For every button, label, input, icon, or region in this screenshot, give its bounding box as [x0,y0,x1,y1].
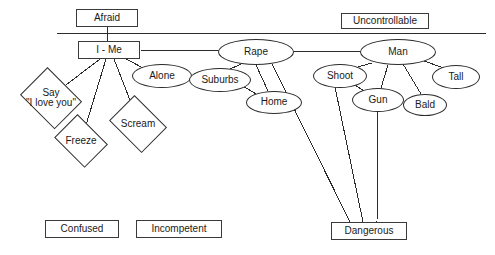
node-label-rape: Rape [244,47,268,58]
node-label-bald: Bald [415,100,435,111]
node-alone[interactable]: Alone [132,64,192,88]
node-tall[interactable]: Tall [432,65,480,89]
node-man[interactable]: Man [360,39,436,65]
node-label-uncontrollable: Uncontrollable [353,16,417,27]
node-home[interactable]: Home [246,91,302,114]
node-i-me[interactable]: I - Me [78,41,140,59]
edge-rape-to-home [256,65,268,91]
edge-i-me-to-rape [140,50,220,51]
node-label-scream: Scream [121,119,155,130]
node-label-tall: Tall [448,72,463,83]
concept-map-diagram: AfraidUncontrollableI - MeRapeManAloneSu… [0,0,495,255]
edge-i-me-to-freeze [86,59,106,125]
node-shoot[interactable]: Shoot [313,64,367,88]
node-incompetent[interactable]: Incompetent [136,220,222,238]
node-confused[interactable]: Confused [45,220,119,238]
node-label-suburbs: Suburbs [201,75,238,86]
node-label-home: Home [261,97,288,108]
node-afraid[interactable]: Afraid [76,9,138,27]
node-label-dangerous: Dangerous [345,226,394,237]
edge-suburbs-to-home [243,86,256,94]
node-label-incompetent: Incompetent [151,224,206,235]
node-label-freeze: Freeze [65,136,96,147]
edge-gun-to-dangerous [377,112,378,222]
node-bald[interactable]: Bald [403,94,447,116]
node-label-shoot: Shoot [327,71,353,82]
node-label-man: Man [388,47,407,58]
node-label-gun: Gun [369,95,388,106]
node-label-alone: Alone [149,71,175,82]
edge-man-to-gun [381,65,388,88]
node-dangerous[interactable]: Dangerous [331,222,407,240]
node-label-say-i-love-you: Say "I love you" [26,88,76,109]
node-label-i-me: I - Me [96,45,122,56]
node-label-confused: Confused [61,224,104,235]
node-freeze[interactable]: Freeze [52,119,110,163]
node-label-afraid: Afraid [94,13,120,24]
node-suburbs[interactable]: Suburbs [189,68,251,92]
node-rape[interactable]: Rape [218,39,294,65]
edge-man-to-bald [403,64,421,94]
node-scream[interactable]: Scream [107,100,169,148]
node-uncontrollable[interactable]: Uncontrollable [341,13,429,29]
node-gun[interactable]: Gun [352,88,404,112]
